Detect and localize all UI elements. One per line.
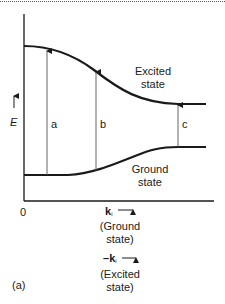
- k-ground-caption-line2: state): [95, 233, 145, 246]
- origin-label: 0: [20, 206, 26, 218]
- excited-state-label-line1: Excited: [128, 65, 178, 78]
- panel-label: (a): [12, 279, 25, 291]
- energy-axis-label: E: [10, 116, 17, 128]
- ground-state-label-line1: Ground: [125, 163, 175, 176]
- transition-label-a: a: [51, 118, 57, 130]
- ground-state-curve: [24, 147, 206, 175]
- k-ground-symbol: ki: [105, 205, 112, 220]
- k-ground-caption: (Ground state): [95, 220, 145, 246]
- transition-label-b: b: [100, 118, 106, 130]
- k-excited-caption-line2: state): [95, 281, 145, 294]
- ground-state-label-line2: state: [125, 176, 175, 189]
- k-excited-symbol: –ki: [103, 252, 117, 267]
- excited-state-label-line2: state: [128, 78, 178, 91]
- k-subscript: i: [115, 258, 116, 264]
- excited-state-label: Excited state: [128, 65, 178, 91]
- excited-state-curve: [24, 46, 206, 104]
- k-subscript: i: [111, 211, 112, 217]
- k-excited-caption-line1: (Excited: [95, 268, 145, 281]
- k-ground-caption-line1: (Ground: [95, 220, 145, 233]
- ground-state-label: Ground state: [125, 163, 175, 189]
- k-excited-caption: (Excited state): [95, 268, 145, 294]
- transition-label-c: c: [182, 118, 188, 130]
